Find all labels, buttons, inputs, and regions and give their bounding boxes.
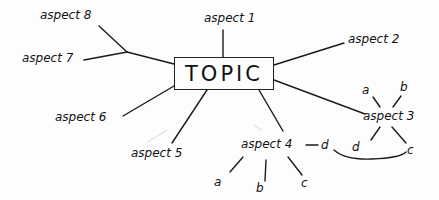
aspect-4-child-b: b bbox=[256, 182, 264, 194]
branch-4c bbox=[288, 157, 302, 175]
branch-3b bbox=[393, 96, 401, 107]
link-4d-3c bbox=[334, 150, 406, 159]
branch-aspect-2 bbox=[274, 43, 344, 65]
aspect-3-child-a: a bbox=[362, 84, 369, 96]
aspect-3-child-d: d bbox=[352, 141, 360, 153]
topic-label: TOPIC bbox=[185, 62, 263, 86]
aspect-5-label: aspect 5 bbox=[131, 147, 182, 159]
mind-map-lines bbox=[0, 0, 439, 200]
branch-aspect-3 bbox=[274, 80, 365, 114]
aspect-8-label: aspect 8 bbox=[40, 9, 91, 21]
branch-aspect-5 bbox=[172, 90, 207, 143]
aspect-4-child-d: d bbox=[321, 139, 329, 151]
branch-4a bbox=[230, 157, 243, 172]
aspect-4-label: aspect 4 bbox=[241, 138, 292, 150]
aspect-1-label: aspect 1 bbox=[204, 12, 255, 24]
branch-3a bbox=[373, 97, 380, 107]
branch-3d bbox=[371, 127, 380, 140]
topic-box: TOPIC bbox=[174, 57, 274, 90]
aspect-3-child-b: b bbox=[400, 81, 408, 93]
branch-aspect-8 bbox=[99, 26, 127, 52]
aspect-4-child-a: a bbox=[214, 176, 221, 188]
aspect-3-label: aspect 3 bbox=[363, 110, 414, 122]
branch-aspect-7 bbox=[84, 52, 127, 60]
aspect-2-label: aspect 2 bbox=[348, 33, 399, 45]
aspect-4-child-c: c bbox=[301, 177, 308, 189]
branch-3c bbox=[392, 127, 406, 143]
aspect-7-label: aspect 7 bbox=[22, 52, 73, 64]
branch-aspect-7-8 bbox=[127, 52, 174, 64]
aspect-3-child-c: c bbox=[407, 144, 414, 156]
branch-aspect-6 bbox=[123, 86, 174, 116]
branch-aspect-4 bbox=[259, 90, 283, 131]
aspect-6-label: aspect 6 bbox=[55, 111, 106, 123]
branch-4b bbox=[265, 160, 266, 181]
